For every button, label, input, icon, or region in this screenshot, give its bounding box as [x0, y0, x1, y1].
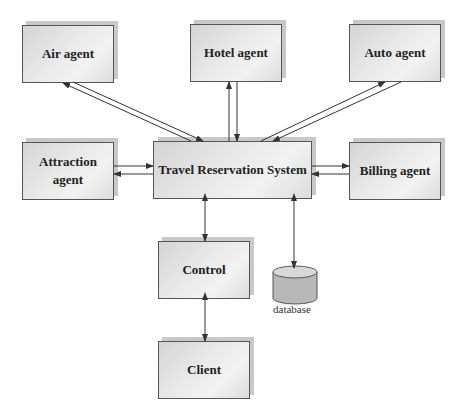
- database-label: database: [273, 303, 311, 315]
- attraction-agent-label-line2: agent: [53, 171, 83, 189]
- client-label: Client: [187, 361, 221, 379]
- travel-reservation-system-node: Travel Reservation System: [153, 141, 312, 199]
- attraction-agent-label-line1: Attraction: [39, 153, 97, 171]
- auto-to-trs-arrow: [273, 82, 401, 141]
- control-node: Control: [158, 241, 250, 299]
- billing-agent-label: Billing agent: [360, 162, 430, 180]
- auto-agent-label: Auto agent: [364, 44, 425, 62]
- air-agent-label: Air agent: [42, 45, 94, 63]
- auto-agent-node: Auto agent: [349, 24, 441, 82]
- client-node: Client: [158, 341, 250, 399]
- billing-agent-node: Billing agent: [349, 142, 441, 200]
- attraction-agent-node: Attraction agent: [22, 142, 114, 200]
- trs-label: Travel Reservation System: [158, 161, 307, 179]
- trs-to-auto-arrow: [261, 82, 385, 141]
- trs-to-air-arrow: [63, 83, 191, 141]
- hotel-agent-label: Hotel agent: [204, 44, 268, 62]
- hotel-agent-node: Hotel agent: [190, 24, 282, 82]
- control-label: Control: [182, 261, 225, 279]
- database-icon: [270, 262, 320, 308]
- air-agent-node: Air agent: [22, 25, 114, 83]
- air-to-trs-arrow: [73, 82, 203, 141]
